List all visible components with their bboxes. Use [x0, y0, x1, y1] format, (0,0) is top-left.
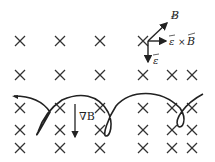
- trajectory-arrow-icon: [12, 95, 18, 99]
- grad-b-label: ∇B: [79, 110, 95, 123]
- b-vector-arrow-icon: [148, 23, 167, 41]
- exb-label-b: B: [186, 35, 195, 48]
- drift-diagram: ∇B B ε × B ε: [0, 0, 215, 162]
- particle-trajectory: [14, 94, 203, 137]
- exb-label-e: ε: [169, 36, 174, 47]
- e-vector-label: ε: [153, 55, 158, 66]
- exb-cross-symbol: ×: [178, 37, 186, 47]
